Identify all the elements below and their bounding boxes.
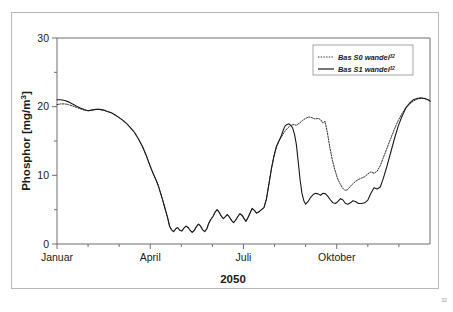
- x-axis-title: 2050: [220, 273, 246, 285]
- y-tick-label: 0: [43, 238, 49, 250]
- figure-container: 0102030 JanuarAprilJuliOktober Phosphor …: [0, 0, 453, 312]
- legend-label-s1: Bas S1 wandel32: [338, 65, 395, 74]
- y-tick-label: 30: [37, 32, 49, 44]
- y-tick-label: 10: [37, 169, 49, 181]
- corner-footnote-mark: 32: [441, 297, 447, 303]
- y-tick-label: 20: [37, 100, 49, 112]
- x-tick-label-oktober: Oktober: [318, 251, 356, 263]
- y-axis-tick-labels: 0102030: [37, 32, 49, 250]
- x-tick-label-januar: Januar: [41, 251, 74, 263]
- x-axis-tick-labels: JanuarAprilJuliOktober: [41, 251, 356, 263]
- x-tick-label-juli: Juli: [236, 251, 252, 263]
- x-tick-label-april: April: [140, 251, 161, 263]
- phosphorus-time-series-chart: 0102030 JanuarAprilJuliOktober Phosphor …: [0, 0, 453, 312]
- chart-legend: Bas S0 wandel32Bas S1 wandel32: [313, 45, 413, 75]
- legend-label-s0: Bas S0 wandel32: [338, 53, 395, 62]
- y-axis-title: Phosphor [mg/m3]: [19, 91, 33, 191]
- y-axis-ticks: [52, 38, 57, 244]
- x-axis-ticks: [57, 244, 399, 249]
